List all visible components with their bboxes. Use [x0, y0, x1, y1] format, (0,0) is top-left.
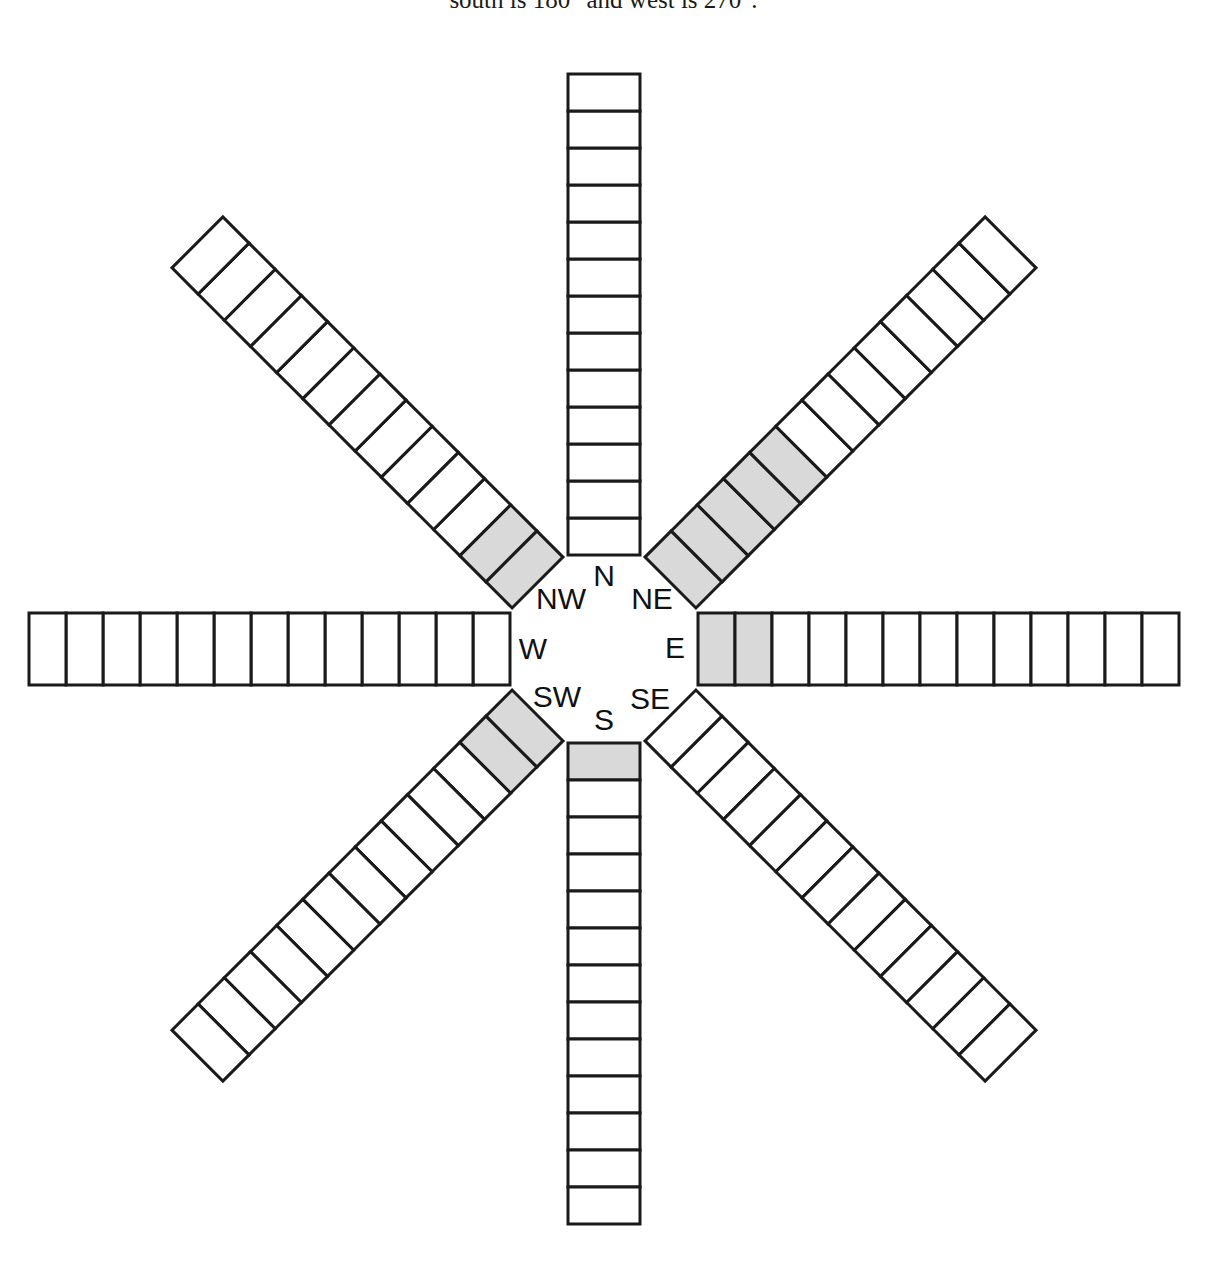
ray-cell-n-8 [568, 259, 640, 296]
ray-cell-e-9 [994, 613, 1031, 685]
ray-cell-n-6 [568, 333, 640, 370]
compass-rose-diagram: NNEESESSWWNW [0, 0, 1207, 1285]
ray-cell-w-8 [214, 613, 251, 685]
ray-cell-n-12 [568, 111, 640, 148]
ray-cell-s-3 [568, 817, 640, 854]
ray-cell-w-7 [251, 613, 288, 685]
ray-cell-n-9 [568, 222, 640, 259]
direction-label-se: SE [630, 682, 670, 715]
ray-cell-w-10 [140, 613, 177, 685]
ray-cell-w-13 [29, 613, 66, 685]
ray-cell-e-5 [846, 613, 883, 685]
ray-cell-w-2 [436, 613, 473, 685]
ray-cell-e-12 [1105, 613, 1142, 685]
ray-cell-n-2 [568, 481, 640, 518]
ray-cell-s-6 [568, 928, 640, 965]
ray-cell-e-4 [809, 613, 846, 685]
ray-cell-n-7 [568, 296, 640, 333]
ray-cell-s-9 [568, 1039, 640, 1076]
ray-cell-s-8 [568, 1002, 640, 1039]
ray-cell-w-3 [399, 613, 436, 685]
compass-rose-svg: NNEESESSWWNW [0, 0, 1207, 1285]
ray-cell-n-13 [568, 74, 640, 111]
ray-cell-n-11 [568, 148, 640, 185]
ray-cell-s-10 [568, 1076, 640, 1113]
ray-cell-w-1 [473, 613, 510, 685]
ray-cell-n-4 [568, 407, 640, 444]
ray-cell-n-10 [568, 185, 640, 222]
ray-cell-w-11 [103, 613, 140, 685]
ray-cell-e-7 [920, 613, 957, 685]
ray-cell-e-8 [957, 613, 994, 685]
direction-label-w: W [519, 632, 548, 665]
ray-cell-e-11 [1068, 613, 1105, 685]
ray-cell-n-5 [568, 370, 640, 407]
ray-cell-s-1 [568, 743, 640, 780]
ray-cell-e-2 [735, 613, 772, 685]
ray-cell-e-10 [1031, 613, 1068, 685]
direction-label-nw: NW [536, 582, 587, 615]
ray-cell-e-13 [1142, 613, 1179, 685]
ray-cell-s-5 [568, 891, 640, 928]
ray-cell-w-5 [325, 613, 362, 685]
direction-label-e: E [665, 631, 685, 664]
direction-label-n: N [593, 559, 615, 592]
direction-label-s: S [594, 703, 614, 736]
ray-cell-s-13 [568, 1187, 640, 1224]
direction-label-sw: SW [533, 680, 582, 713]
ray-cell-n-1 [568, 518, 640, 555]
direction-label-ne: NE [631, 582, 673, 615]
ray-cell-e-6 [883, 613, 920, 685]
ray-cell-s-11 [568, 1113, 640, 1150]
ray-cell-s-7 [568, 965, 640, 1002]
ray-cell-w-6 [288, 613, 325, 685]
ray-cell-w-12 [66, 613, 103, 685]
ray-cell-w-4 [362, 613, 399, 685]
ray-cell-e-1 [698, 613, 735, 685]
ray-cell-w-9 [177, 613, 214, 685]
ray-cell-s-2 [568, 780, 640, 817]
ray-cell-s-4 [568, 854, 640, 891]
ray-cell-n-3 [568, 444, 640, 481]
ray-cell-e-3 [772, 613, 809, 685]
ray-cell-s-12 [568, 1150, 640, 1187]
